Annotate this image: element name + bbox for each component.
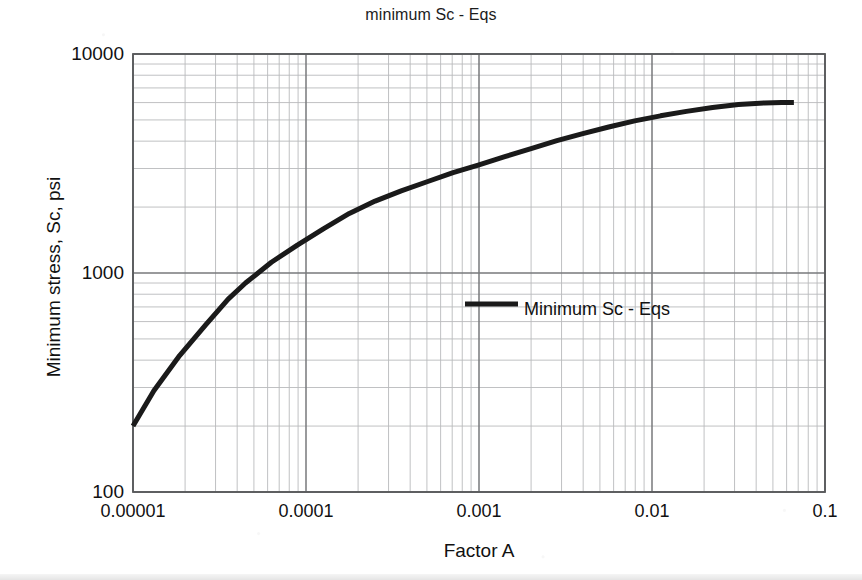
x-tick-label: 0.0001 (278, 501, 333, 522)
chart-figure: minimum Sc - Eqs Minimum stress, Sc, psi… (0, 0, 862, 580)
y-tick-label: 100 (92, 481, 124, 503)
y-tick-label: 1000 (82, 262, 124, 284)
x-tick-label: 0.00001 (100, 501, 165, 522)
plot-area (0, 0, 862, 580)
x-tick-label: 0.01 (634, 501, 669, 522)
x-tick-label: 0.1 (812, 501, 837, 522)
x-tick-label: 0.001 (456, 501, 501, 522)
legend-entry-label: Minimum Sc - Eqs (524, 299, 670, 320)
y-tick-label: 10000 (71, 43, 124, 65)
